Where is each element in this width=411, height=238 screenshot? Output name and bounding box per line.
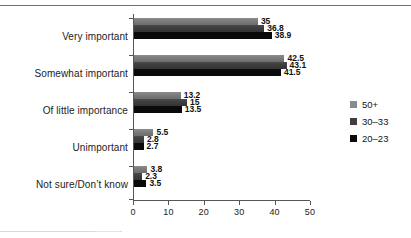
bar xyxy=(134,99,187,106)
category-label: Not sure/Don’t know xyxy=(4,179,128,190)
bar-value-label: 2.7 xyxy=(147,142,159,150)
y-axis-tick xyxy=(129,92,133,93)
category-label: Unimportant xyxy=(4,142,128,153)
x-axis-line xyxy=(133,200,310,201)
legend-item-20-23: 20–23 xyxy=(350,130,388,147)
top-divider xyxy=(0,5,411,6)
x-axis-tick-label: 30 xyxy=(234,207,244,217)
x-axis-tick xyxy=(168,201,169,205)
category-label: Somewhat important xyxy=(4,68,128,79)
bar xyxy=(134,69,281,76)
bar xyxy=(134,136,144,143)
legend-label: 50+ xyxy=(362,99,378,110)
bar xyxy=(134,92,181,99)
x-axis-tick xyxy=(204,201,205,205)
x-axis-tick-label: 20 xyxy=(199,207,209,217)
bar xyxy=(134,62,287,69)
y-axis-tick xyxy=(129,199,133,200)
x-axis-tick-label: 0 xyxy=(130,207,135,217)
legend-label: 20–23 xyxy=(362,133,388,144)
x-axis-tick xyxy=(275,201,276,205)
x-axis-tick-label: 50 xyxy=(305,207,315,217)
category-label: Of little importance xyxy=(4,105,128,116)
legend-swatch-icon xyxy=(350,101,357,108)
y-axis-tick xyxy=(129,166,133,167)
bottom-divider-secondary xyxy=(95,231,120,232)
category-label-column: Very important Somewhat important Of lit… xyxy=(0,14,128,200)
category-label: Very important xyxy=(4,31,128,42)
bar xyxy=(134,173,142,180)
bar-value-label: 41.5 xyxy=(284,68,301,76)
chart-figure: Very important Somewhat important Of lit… xyxy=(0,0,411,238)
bar xyxy=(134,18,258,25)
bar-value-label: 3.5 xyxy=(149,179,161,187)
y-axis-tick xyxy=(129,55,133,56)
legend-label: 30–33 xyxy=(362,116,388,127)
plot-area: 01020304050 3536.838.942.543.141.513.215… xyxy=(133,14,310,200)
y-axis-tick xyxy=(129,129,133,130)
bar xyxy=(134,55,284,62)
bar xyxy=(134,143,144,150)
x-axis-tick xyxy=(239,201,240,205)
legend-item-50plus: 50+ xyxy=(350,96,388,113)
bar-value-label: 38.9 xyxy=(275,31,292,39)
legend-swatch-icon xyxy=(350,135,357,142)
x-axis-tick-label: 40 xyxy=(269,207,279,217)
x-axis-tick-label: 10 xyxy=(163,207,173,217)
legend: 50+ 30–33 20–23 xyxy=(350,96,388,147)
legend-item-30-33: 30–33 xyxy=(350,113,388,130)
y-axis-tick xyxy=(129,18,133,19)
x-axis-tick xyxy=(310,201,311,205)
bar xyxy=(134,180,146,187)
bar-value-label: 13.5 xyxy=(185,105,202,113)
bar xyxy=(134,32,272,39)
x-axis-tick xyxy=(133,201,134,205)
legend-swatch-icon xyxy=(350,118,357,125)
bar xyxy=(134,106,182,113)
bar xyxy=(134,25,264,32)
